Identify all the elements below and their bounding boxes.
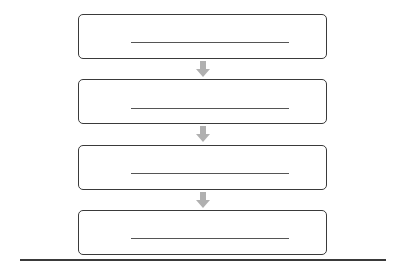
step-box-3 [78,145,327,190]
step-box-1 [78,14,327,59]
step-box-2 [78,79,327,124]
fill-in-blank-line [131,42,289,43]
down-arrow-icon [196,192,210,208]
down-arrow-icon [196,61,210,77]
baseline-divider [20,259,386,261]
fill-in-blank-line [131,108,289,109]
fill-in-blank-line [131,238,289,239]
fill-in-blank-line [131,173,289,174]
down-arrow-icon [196,126,210,142]
step-box-4 [78,210,327,255]
